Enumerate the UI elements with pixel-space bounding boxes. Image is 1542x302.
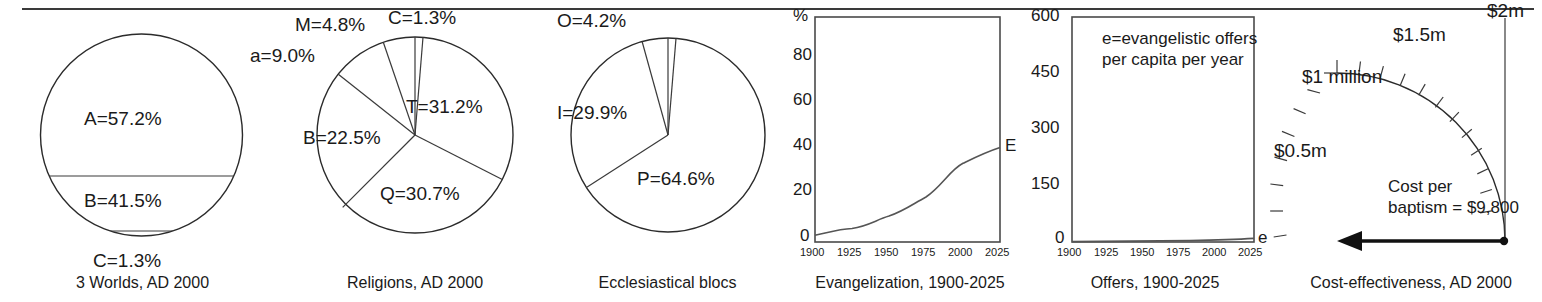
offers-ytick-300: 300 [1031,118,1059,138]
religions-label-t: T=31.2% [406,96,483,118]
evangelization-ytick-80: 80 [793,45,812,65]
ecclesiastical-label-o: O=4.2% [557,10,626,32]
panel-caption-ecclesiastical-blocs: Ecclesiastical blocs [545,274,790,292]
cost-arc-label-two-million: $2m [1487,0,1524,22]
offers-xtick-2000: 2000 [1202,246,1226,258]
panel-ecclesiastical-blocs: O=4.2% I=29.9% P=64.6% Ecclesiastical bl… [545,0,790,302]
evangelization-xtick-1975: 1975 [911,246,935,258]
ecclesiastical-label-p: P=64.6% [637,168,715,190]
cost-per-baptism-annotation: Cost per baptism = $9,800 [1388,176,1519,219]
evangelization-ylabel-unit: % [793,6,808,26]
cost-arc-label-half: $0.5m [1274,140,1327,162]
offers-xtick-1925: 1925 [1094,246,1118,258]
offers-ytick-600: 600 [1031,6,1059,26]
evangelization-xtick-1900: 1900 [800,246,824,258]
religions-label-m: M=4.8% [295,14,365,36]
evangelization-series-label-e: E [1005,136,1016,156]
cost-arc-label-one-point-five: $1.5m [1393,24,1446,46]
religions-label-b: B=22.5% [303,127,381,149]
religions-label-a: a=9.0% [250,45,315,67]
evangelization-xtick-1950: 1950 [874,246,898,258]
evangelization-ytick-0: 0 [800,226,809,246]
figure-root: A=57.2% B=41.5% C=1.3% 3 Worlds, AD 2000… [0,0,1542,302]
three-worlds-label-b: B=41.5% [84,190,162,212]
cost-annotation-line2: baptism = $9,800 [1388,198,1519,217]
cost-arc-label-one-million: $1 million [1302,66,1382,88]
panel-caption-offers: Offers, 1900-2025 [1030,274,1280,292]
panel-offers: 600 450 300 150 0 1900 1925 1950 1975 20… [1030,0,1280,302]
offers-xtick-1900: 1900 [1057,246,1081,258]
offers-xtick-1950: 1950 [1130,246,1154,258]
offers-series-label-e: e [1258,228,1267,248]
evangelization-xtick-2000: 2000 [948,246,972,258]
evangelization-ytick-60: 60 [793,90,812,110]
religions-label-q: Q=30.7% [380,183,460,205]
offers-annotation-line1: e=evangelistic offers [1102,29,1257,48]
evangelization-xtick-2025: 2025 [985,246,1009,258]
offers-annotation: e=evangelistic offers per capita per yea… [1102,28,1257,71]
panel-caption-religions: Religions, AD 2000 [285,274,545,292]
panel-three-worlds: A=57.2% B=41.5% C=1.3% 3 Worlds, AD 2000 [0,0,285,302]
evangelization-ytick-40: 40 [793,135,812,155]
offers-xtick-1975: 1975 [1166,246,1190,258]
panel-caption-cost-effectiveness: Cost-effectiveness, AD 2000 [1280,274,1542,292]
religions-label-c: C=1.3% [388,7,456,29]
panel-evangelization: % 80 60 40 20 0 1900 1925 1950 1975 2000… [790,0,1030,302]
cost-annotation-line1: Cost per [1388,177,1452,196]
evangelization-ytick-20: 20 [793,180,812,200]
offers-ytick-150: 150 [1031,174,1059,194]
offers-annotation-line2: per capita per year [1102,50,1244,69]
offers-ytick-0: 0 [1055,228,1064,248]
panel-caption-three-worlds: 3 Worlds, AD 2000 [0,274,285,292]
ecclesiastical-label-i: I=29.9% [557,102,627,124]
three-worlds-label-a: A=57.2% [84,108,162,130]
three-worlds-label-c: C=1.3% [93,250,161,272]
panel-religions: M=4.8% C=1.3% a=9.0% T=31.2% B=22.5% Q=3… [285,0,545,302]
evangelization-line-chart [790,0,1030,265]
panel-cost-effectiveness: $0.5m $1 million $1.5m $2m Cost per bapt… [1280,0,1542,302]
offers-ytick-450: 450 [1031,62,1059,82]
ecclesiastical-blocs-pie [545,0,790,265]
evangelization-xtick-1925: 1925 [837,246,861,258]
three-worlds-band-circle [0,0,285,265]
panel-caption-evangelization: Evangelization, 1900-2025 [790,274,1030,292]
